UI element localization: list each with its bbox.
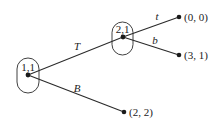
decision-node-2 <box>121 35 126 40</box>
decision-node-1 <box>26 73 31 78</box>
action-label-B: B <box>74 82 81 94</box>
action-label-t: t <box>155 10 159 22</box>
action-label-T: T <box>74 40 81 52</box>
node-label-2: 2,1 <box>116 23 130 35</box>
action-label-b: b <box>152 34 158 46</box>
payoff-label-1: (0, 0) <box>184 11 208 24</box>
node-label-1: 1,1 <box>21 61 35 73</box>
terminal-node-2 <box>177 53 182 58</box>
terminal-node-1 <box>177 15 182 20</box>
game-tree: 1,1 2,1 T B t b (0, 0) (3, 1) (2, 2) <box>0 0 223 127</box>
payoff-label-2: (3, 1) <box>184 49 208 62</box>
payoff-label-3: (2, 2) <box>129 106 153 119</box>
edge-b <box>123 37 179 55</box>
terminal-node-3 <box>122 110 127 115</box>
